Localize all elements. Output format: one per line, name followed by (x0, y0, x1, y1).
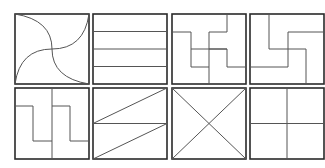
tile-curved-pinwheel (15, 14, 89, 84)
tile-quadrants (250, 88, 324, 159)
tile-vertical-zigzag (15, 88, 89, 159)
tile-interlocking-t (172, 14, 246, 84)
dissection-figure (0, 0, 325, 168)
tile-diagonal-cross (172, 88, 246, 159)
tile-interlocking-l (250, 14, 324, 84)
tile-horizontal-strips (93, 14, 167, 84)
tile-diagonal-strips (93, 88, 167, 159)
